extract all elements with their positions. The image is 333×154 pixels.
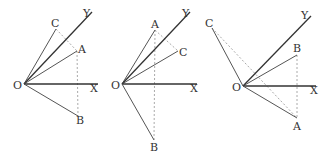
label-point-b: B [293, 42, 301, 55]
panel-3: O X Y C B A [205, 9, 318, 133]
label-point-c: C [179, 46, 187, 59]
ray-oc [122, 51, 178, 84]
label-point-b: B [150, 141, 158, 154]
label-x-axis: X [90, 82, 98, 95]
label-y-axis: Y [181, 7, 190, 20]
ray-ob [24, 84, 78, 116]
label-origin: O [13, 79, 22, 92]
label-point-c: C [205, 17, 213, 30]
label-origin: O [232, 81, 241, 94]
label-point-b: B [76, 114, 84, 127]
ray-ob [243, 55, 297, 86]
label-point-a: A [77, 43, 87, 56]
dashed-line-c-a [212, 28, 297, 118]
ray-oc [212, 28, 243, 86]
label-point-a: A [150, 18, 160, 31]
diagram-canvas: O X Y C A B O X Y A C B O X Y C B A [0, 0, 333, 154]
panel-2: O X Y A C B [111, 7, 198, 154]
ray-oc [24, 29, 56, 84]
label-y-axis: Y [82, 7, 91, 20]
ray-oa [122, 30, 155, 84]
panel-1: O X Y C A B [13, 7, 98, 127]
label-origin: O [111, 79, 120, 92]
label-x-axis: X [190, 82, 198, 95]
dashed-line-a-c [155, 30, 178, 51]
dashed-line-a-b [154, 30, 155, 140]
label-x-axis: X [310, 84, 318, 97]
label-y-axis: Y [300, 9, 309, 22]
ray-ob [122, 84, 154, 140]
ray-oa [243, 86, 297, 118]
label-point-c: C [51, 17, 59, 30]
label-point-a: A [292, 120, 302, 133]
